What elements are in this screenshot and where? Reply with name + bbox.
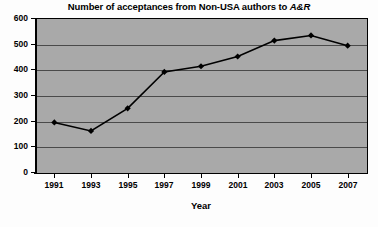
y-tick-label: 0 <box>0 167 28 177</box>
chart-title-italic: A&R <box>290 1 310 12</box>
x-tick-mark <box>128 174 129 178</box>
gridline <box>37 45 367 46</box>
x-tick-mark <box>201 174 202 178</box>
plot-inner <box>37 19 367 173</box>
gridline <box>37 96 367 97</box>
chart-title: Number of acceptances from Non-USA autho… <box>0 1 378 12</box>
y-tick-label: 500 <box>0 39 28 49</box>
y-tick-label: 400 <box>0 64 28 74</box>
y-tick-mark <box>31 121 36 122</box>
chart-title-plain: Number of acceptances from Non-USA autho… <box>68 1 290 12</box>
x-tick-mark <box>54 174 55 178</box>
y-tick-label: 200 <box>0 116 28 126</box>
x-tick-label: 2003 <box>254 180 294 190</box>
y-tick-label: 600 <box>0 13 28 23</box>
y-axis-line <box>35 18 36 174</box>
x-tick-mark <box>164 174 165 178</box>
x-tick-mark <box>311 174 312 178</box>
gridline <box>37 147 367 148</box>
x-tick-mark <box>91 174 92 178</box>
x-tick-label: 2001 <box>218 180 258 190</box>
x-tick-label: 1991 <box>34 180 74 190</box>
y-tick-mark <box>31 44 36 45</box>
chart-figure: Number of acceptances from Non-USA autho… <box>0 0 378 227</box>
gridline <box>37 122 367 123</box>
x-tick-mark <box>348 174 349 178</box>
y-tick-mark <box>31 146 36 147</box>
y-tick-mark <box>31 69 36 70</box>
y-tick-mark <box>31 18 36 19</box>
x-tick-label: 1997 <box>144 180 184 190</box>
y-tick-mark <box>31 172 36 173</box>
y-tick-label: 300 <box>0 90 28 100</box>
x-tick-label: 2007 <box>328 180 368 190</box>
x-axis-title: Year <box>36 200 366 211</box>
x-tick-label: 1993 <box>71 180 111 190</box>
plot-area <box>36 18 368 174</box>
x-tick-label: 2005 <box>291 180 331 190</box>
x-tick-mark <box>238 174 239 178</box>
x-tick-mark <box>274 174 275 178</box>
y-tick-label: 100 <box>0 141 28 151</box>
gridline <box>37 70 367 71</box>
y-tick-mark <box>31 95 36 96</box>
x-tick-label: 1999 <box>181 180 221 190</box>
x-tick-label: 1995 <box>108 180 148 190</box>
